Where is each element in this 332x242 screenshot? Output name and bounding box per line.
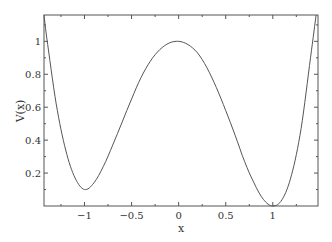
chart: −1−0.500.51 0.20.40.60.81 x V(x): [0, 0, 332, 242]
x-tick-label: 0: [175, 210, 181, 221]
y-tick-label: 0.4: [25, 135, 41, 146]
x-tick-label: −0.5: [119, 210, 143, 221]
x-axis-ticks: −1−0.500.51: [61, 15, 296, 221]
plot-frame: [44, 15, 318, 206]
x-tick-label: −1: [77, 210, 92, 221]
y-tick-label: 0.2: [25, 168, 41, 179]
x-tick-label: 0.5: [218, 210, 234, 221]
potential-curve: [44, 15, 316, 206]
y-axis-ticks: 0.20.40.60.81: [25, 25, 318, 190]
x-tick-label: 1: [270, 210, 276, 221]
y-tick-label: 0.8: [25, 69, 41, 80]
x-axis-label: x: [178, 222, 185, 235]
y-axis-label: V(x): [14, 100, 27, 124]
y-tick-label: 1: [35, 36, 41, 47]
y-tick-label: 0.6: [25, 102, 41, 113]
